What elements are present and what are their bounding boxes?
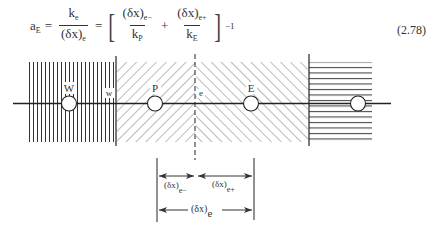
- label-dx-e-plus: (δx)e+: [212, 179, 235, 194]
- label-dx-e-minus: (δx)e−: [164, 180, 187, 195]
- node-E-circle: [244, 96, 259, 111]
- node-W-label: W: [64, 82, 75, 94]
- node-W-circle: [62, 96, 77, 111]
- face-e-label: e: [199, 88, 203, 98]
- label-dx-e-total: (δx)e: [191, 203, 212, 219]
- node-P-circle: [148, 96, 163, 111]
- node-E-label: E: [248, 82, 255, 94]
- control-volume-diagram: W w P e E (δx)e− (δx)e+ (δx)e: [0, 0, 439, 234]
- face-w-label: w: [106, 88, 113, 98]
- node-P-label: P: [152, 82, 158, 94]
- node-EE-circle: [351, 96, 366, 111]
